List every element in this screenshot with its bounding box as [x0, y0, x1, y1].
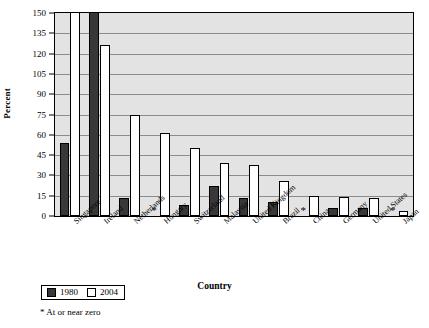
bar-malaysia-2004 — [220, 163, 230, 216]
legend-swatch-1980 — [47, 288, 56, 297]
y-axis-ticks: 0153045607590105120135150 — [0, 12, 54, 217]
y-tick-label: 30 — [2, 171, 46, 180]
bar-switzerland-2004 — [190, 148, 200, 216]
x-axis-labels: SingaporeIrelandNetherlandsHungarySwitze… — [54, 219, 414, 277]
bar-united-kingdom-2004 — [249, 165, 259, 216]
y-tick-label: 150 — [2, 9, 46, 18]
y-tick-label: 15 — [2, 191, 46, 200]
bar-singapore-1980 — [60, 143, 70, 216]
plot-area: *** — [54, 12, 414, 217]
bar-ireland-2004 — [100, 45, 110, 216]
legend-item-1980: 1980 — [47, 288, 78, 297]
y-tick-label: 45 — [2, 151, 46, 160]
y-tick-label: 0 — [2, 212, 46, 221]
gridline — [55, 33, 413, 34]
bar-chart: Percent 0153045607590105120135150 *** Si… — [0, 0, 429, 328]
legend-label-1980: 1980 — [60, 288, 78, 297]
legend-swatch-2004 — [87, 288, 96, 297]
bar-netherlands-2004 — [130, 115, 140, 217]
y-tick-label: 120 — [2, 49, 46, 58]
y-tick-label: 75 — [2, 110, 46, 119]
footnote-near-zero: * At or near zero — [40, 307, 100, 317]
legend-label-2004: 2004 — [100, 288, 118, 297]
y-tick-label: 60 — [2, 130, 46, 139]
legend-item-2004: 2004 — [87, 288, 118, 297]
bar-singapore-2004 — [70, 12, 80, 216]
y-tick-label: 135 — [2, 29, 46, 38]
bar-ireland-1980 — [89, 12, 99, 216]
y-tick-label: 105 — [2, 69, 46, 78]
y-tick-label: 90 — [2, 90, 46, 99]
legend: 1980 2004 — [41, 285, 125, 300]
